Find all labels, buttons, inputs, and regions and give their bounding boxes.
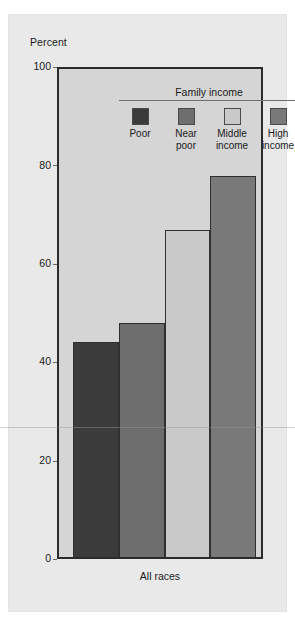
- plot-inner: Family income Poor Near poor Middle: [59, 69, 261, 557]
- y-tickmark-0: [53, 559, 57, 560]
- y-tick-label-80: 80: [11, 159, 51, 171]
- bar-high-income[interactable]: [210, 176, 256, 557]
- legend-swatch-high-income: [270, 108, 287, 125]
- y-axis-title: Percent: [30, 36, 67, 48]
- y-tick-label-100: 100: [11, 60, 51, 72]
- bar-middle-income[interactable]: [165, 230, 211, 557]
- bar-poor[interactable]: [73, 342, 119, 557]
- plot-area: Family income Poor Near poor Middle: [57, 67, 263, 559]
- bar-near-poor[interactable]: [119, 323, 165, 557]
- legend-item-high-income[interactable]: High income: [257, 108, 295, 151]
- x-axis-group-label: All races: [57, 570, 263, 582]
- legend-label-high-income-line2: income: [257, 140, 295, 152]
- y-tick-label-40: 40: [11, 355, 51, 367]
- bar-group-all-races: [73, 69, 256, 557]
- figure-panel: Percent 100 80 60 40 20 0 Family income …: [8, 14, 287, 612]
- y-tick-label-20: 20: [11, 454, 51, 466]
- y-tick-label-60: 60: [11, 257, 51, 269]
- y-tick-label-0: 0: [11, 552, 51, 564]
- legend-label-high-income-line1: High: [257, 128, 295, 140]
